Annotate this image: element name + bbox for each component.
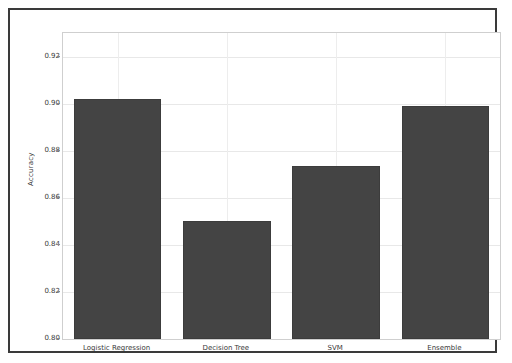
y-axis-tick-mark [57,244,60,245]
y-axis-tick-mark [57,197,60,198]
y-axis-tick-label: 0.88 [16,146,60,154]
x-axis-tick-label: Logistic Regression [83,344,150,352]
x-axis-tick-label: Decision Tree [203,344,250,352]
gridline-horizontal [63,57,500,58]
plot-area [62,32,501,340]
y-axis: 0.800.820.840.860.880.900.92 [10,32,60,340]
x-axis-tick-label: Ensemble [427,344,461,352]
y-axis-label: Accuracy [27,152,35,186]
y-axis-tick-label: 0.92 [16,52,60,60]
x-axis: Logistic RegressionDecision TreeSVMEnsem… [62,341,501,357]
y-axis-tick-mark [57,291,60,292]
y-axis-tick-mark [57,56,60,57]
x-axis-tick-label: SVM [327,344,342,352]
figure-frame: 0.800.820.840.860.880.900.92 Accuracy Lo… [8,8,497,353]
y-axis-tick-label: 0.90 [16,99,60,107]
bar-logistic-regression [74,99,161,339]
y-axis-tick-label: 0.84 [16,240,60,248]
bar-svm [292,166,379,339]
y-axis-tick-label: 0.80 [16,334,60,342]
y-axis-tick-label: 0.82 [16,287,60,295]
y-axis-tick-label: 0.86 [16,193,60,201]
bar-ensemble [402,106,489,339]
y-axis-tick-mark [57,338,60,339]
y-axis-tick-mark [57,103,60,104]
y-axis-tick-mark [57,150,60,151]
bar-decision-tree [183,221,270,339]
gridline-horizontal [63,339,500,340]
